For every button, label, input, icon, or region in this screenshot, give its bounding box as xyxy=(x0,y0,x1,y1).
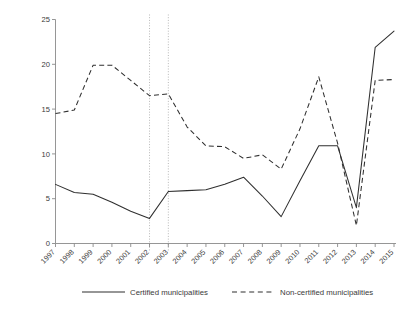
x-tick-label: 2000 xyxy=(95,248,113,266)
x-axis-ticks-group: 1997199819992000200120022003200420052006… xyxy=(39,244,395,266)
series-line-solid xyxy=(56,31,395,218)
x-tick-label: 2014 xyxy=(359,248,377,266)
chart-canvas: 0510152025 19971998199920002001200220032… xyxy=(0,0,414,309)
y-tick-label: 5 xyxy=(46,194,50,203)
y-tick-label: 20 xyxy=(42,60,50,69)
x-tick-label: 2008 xyxy=(246,248,264,266)
chart-figure: Per-capita education quality expenditure… xyxy=(0,0,414,309)
legend-group: Certified municipalitiesNon-certified mu… xyxy=(82,288,373,297)
legend-label: Non-certified municipalities xyxy=(280,288,373,297)
y-tick-label: 0 xyxy=(46,239,50,248)
x-tick-label: 2010 xyxy=(283,248,301,266)
x-tick-label: 1997 xyxy=(39,248,57,266)
y-axis-ticks-group: 0510152025 xyxy=(42,15,56,248)
reference-lines-group xyxy=(150,15,169,252)
x-tick-label: 2013 xyxy=(340,248,358,266)
x-tick-label: 2001 xyxy=(114,248,132,266)
x-tick-label: 2006 xyxy=(208,248,226,266)
x-tick-label: 1999 xyxy=(77,248,95,266)
y-tick-label: 10 xyxy=(42,150,50,159)
series-line-dashed xyxy=(56,65,395,225)
x-tick-label: 2007 xyxy=(227,248,245,266)
x-tick-label: 2009 xyxy=(265,248,283,266)
x-tick-label: 2004 xyxy=(171,248,189,266)
x-tick-label: 2012 xyxy=(321,248,339,266)
x-tick-label: 2003 xyxy=(152,248,170,266)
x-tick-label: 1998 xyxy=(58,248,76,266)
series-group xyxy=(56,31,395,225)
y-tick-label: 15 xyxy=(42,105,50,114)
legend-label: Certified municipalities xyxy=(130,288,208,297)
y-tick-label: 25 xyxy=(42,15,50,24)
x-tick-label: 2011 xyxy=(303,248,321,266)
x-tick-label: 2002 xyxy=(133,248,151,266)
x-tick-label: 2015 xyxy=(377,248,395,266)
x-tick-label: 2005 xyxy=(189,248,207,266)
axes-group xyxy=(56,20,397,244)
